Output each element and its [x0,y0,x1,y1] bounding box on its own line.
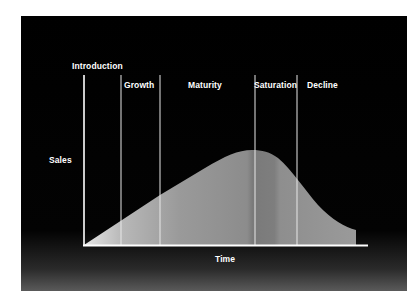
stage-label-saturation: Saturation [254,80,297,90]
x-axis-label: Time [215,254,235,264]
stage-label-decline: Decline [307,80,338,90]
sales-curve-area [84,150,356,245]
y-axis-label: Sales [49,155,72,165]
stage-label-growth: Growth [124,80,154,90]
stage-label-maturity: Maturity [188,80,222,90]
life-cycle-chart [0,0,420,307]
stage-label-introduction: Introduction [72,61,123,71]
